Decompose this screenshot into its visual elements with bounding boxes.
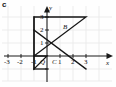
x-tick-label--1: -1	[31, 59, 37, 66]
shape-label-c: C	[52, 59, 57, 66]
x-tick-label-3: 3	[84, 59, 88, 66]
coordinate-plot	[0, 0, 116, 87]
figure-panel: c	[0, 0, 116, 87]
x-tick-label-2: 2	[71, 59, 75, 66]
y-tick-label-1: 1	[40, 40, 44, 47]
x-tick-label--2: -2	[17, 59, 23, 66]
shape-label-b: B	[63, 24, 67, 31]
x-axis-label: x	[106, 60, 109, 67]
axis-lines	[4, 9, 110, 82]
y-tick-label-3: 3	[40, 14, 44, 21]
shape-label-q: Q	[40, 59, 45, 66]
y-tick-label-2: 2	[40, 27, 44, 34]
x-tick-label--3: -3	[4, 59, 10, 66]
y-axis-label: y	[49, 5, 52, 12]
x-tick-label-1: 1	[58, 59, 62, 66]
